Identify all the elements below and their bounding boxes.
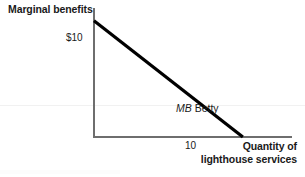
curve-label-plain: Betty xyxy=(192,102,219,114)
lighthouse-marginal-benefit-chart: Marginal benefits $10 10 MB Betty Quanti… xyxy=(0,0,305,177)
mb-betty-curve xyxy=(94,21,243,137)
x-axis-title-line-2: lighthouse services xyxy=(147,153,297,166)
x-axis-title: Quantity of lighthouse services xyxy=(147,140,297,165)
x-axis-title-line-1: Quantity of xyxy=(147,140,297,153)
curve-label-italic: MB xyxy=(176,102,192,114)
mb-betty-curve-label: MB Betty xyxy=(176,102,219,114)
